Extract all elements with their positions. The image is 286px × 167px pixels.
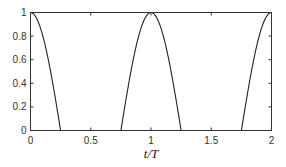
y-tick-label: 0 (21, 125, 27, 136)
chart: 00.511.52 00.20.40.60.81 t/T (0, 0, 286, 167)
x-tick-label: 2 (269, 135, 275, 146)
y-tick-label: 0.4 (13, 78, 27, 89)
axes-box (31, 13, 272, 131)
y-tick-label: 0.6 (13, 54, 27, 65)
x-axis-label: t/T (144, 146, 159, 161)
data-line (31, 13, 272, 131)
y-tick-label: 0.8 (13, 31, 27, 42)
x-tick-label: 1.5 (204, 135, 218, 146)
x-tick-label: 0 (28, 135, 34, 146)
y-tick-label: 1 (21, 7, 27, 18)
x-axis-ticks: 00.511.52 (28, 13, 275, 146)
x-tick-label: 0.5 (84, 135, 98, 146)
series-line (31, 13, 272, 131)
y-tick-label: 0.2 (13, 101, 27, 112)
x-tick-label: 1 (148, 135, 154, 146)
